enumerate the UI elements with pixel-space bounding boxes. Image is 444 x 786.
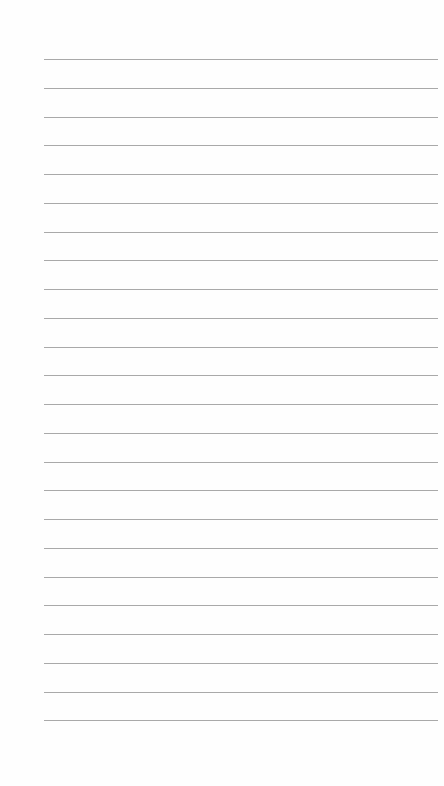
ruled-line <box>44 462 438 463</box>
ruled-line <box>44 433 438 434</box>
ruled-line <box>44 548 438 549</box>
ruled-line <box>44 203 438 204</box>
ruled-line <box>44 692 438 693</box>
ruled-line <box>44 577 438 578</box>
ruled-line <box>44 605 438 606</box>
ruled-line <box>44 375 438 376</box>
ruled-line <box>44 174 438 175</box>
ruled-line <box>44 347 438 348</box>
ruled-line <box>44 720 438 721</box>
ruled-line <box>44 634 438 635</box>
ruled-line <box>44 663 438 664</box>
ruled-line <box>44 88 438 89</box>
ruled-line <box>44 318 438 319</box>
ruled-line <box>44 145 438 146</box>
ruled-line <box>44 519 438 520</box>
ruled-line <box>44 117 438 118</box>
ruled-line <box>44 59 438 60</box>
ruled-line <box>44 232 438 233</box>
ruled-line <box>44 404 438 405</box>
ruled-line <box>44 490 438 491</box>
ruled-line <box>44 260 438 261</box>
lined-paper-sheet <box>0 0 444 786</box>
ruled-line <box>44 289 438 290</box>
